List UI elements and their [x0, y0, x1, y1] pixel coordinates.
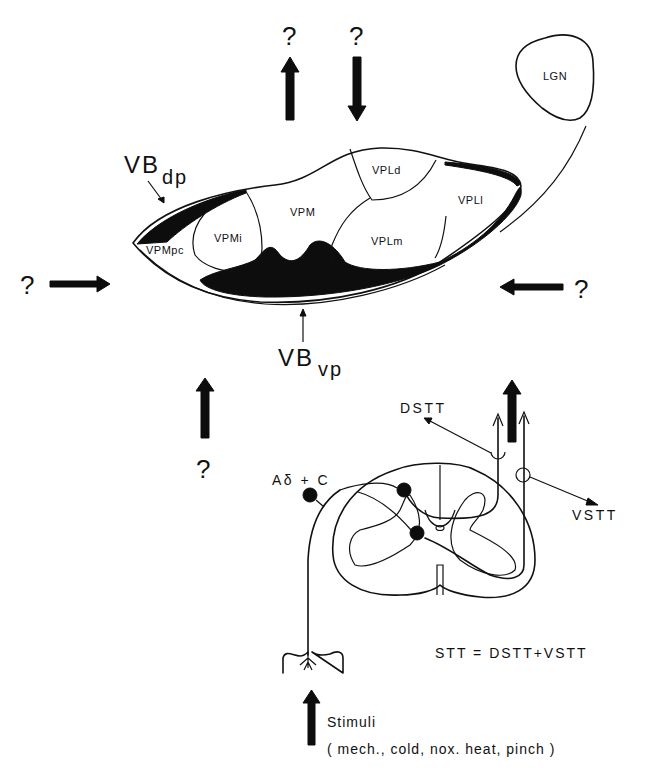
- stimuli-types: ( mech., cold, nox. heat, pinch ): [327, 741, 555, 757]
- thalamus-spinothalamic-diagram: ? ? LGN VPMpc VPMi VPM VPLd VPLm VPLl: [0, 0, 646, 777]
- nucleus-label-vpmi: VPMi: [214, 232, 242, 244]
- nucleus-label-vplm: VPLm: [371, 235, 403, 247]
- top-afferent-arrow: ?: [348, 21, 366, 121]
- ventral-median-fissure: [437, 565, 443, 595]
- vbdp-label-main: VB: [124, 151, 160, 178]
- stimuli-label: Stimuli: [327, 714, 376, 730]
- afferent-branch-deep: [358, 492, 411, 530]
- afferent-branch-superficial: [340, 483, 397, 490]
- nucleus-label-vpmpc: VPMpc: [146, 244, 184, 256]
- deep-dorsal-horn-neuron: [410, 526, 424, 540]
- lgn: LGN: [516, 35, 594, 120]
- vbvp-label-main: VB: [278, 344, 314, 371]
- central-canal: [436, 526, 444, 531]
- vstt-pointer: [530, 477, 590, 502]
- dorsal-horn-neuron: [397, 483, 411, 497]
- arrow-up-icon: [503, 380, 521, 442]
- nucleus-label-vpll: VPLl: [458, 194, 483, 206]
- left-input-arrow: ?: [20, 270, 110, 300]
- dstt-fiber: DSTT: [400, 400, 505, 518]
- unknown-label: ?: [196, 454, 210, 484]
- pointer-arrowhead-icon: [586, 498, 598, 505]
- stt-equation: STT = DSTT+VSTT: [435, 645, 588, 661]
- vbvp-label-group: VB vp: [278, 309, 343, 380]
- lgn-label: LGN: [543, 70, 567, 82]
- unknown-label: ?: [349, 21, 363, 51]
- spinal-cord-section: [333, 463, 535, 597]
- vbvp-label-sub: vp: [318, 358, 343, 380]
- right-input-arrow: ?: [500, 274, 588, 304]
- primary-afferent: Aδ + C: [272, 472, 343, 673]
- vstt-fiber: VSTT: [425, 412, 618, 578]
- vstt-label: VSTT: [572, 507, 618, 523]
- pointer-arrowhead-icon: [300, 309, 306, 316]
- nucleus-label-vpld: VPLd: [372, 164, 401, 176]
- stt-ascending-arrow: [503, 380, 521, 442]
- afferent-label: Aδ + C: [272, 472, 330, 488]
- top-efferent-arrow: ?: [281, 21, 299, 120]
- unknown-label: ?: [20, 270, 34, 300]
- peripheral-axon: [308, 490, 340, 655]
- arrow-left-icon: [500, 279, 563, 295]
- vstt-cross-section-marker: [516, 468, 530, 482]
- pointer-arrowhead-icon: [158, 197, 164, 203]
- dstt-axon: [404, 418, 498, 518]
- stimuli-group: Stimuli ( mech., cold, nox. heat, pinch …: [303, 690, 555, 757]
- unknown-label: ?: [574, 274, 588, 304]
- dstt-label: DSTT: [400, 400, 447, 416]
- nucleus-label-vpm: VPM: [290, 206, 315, 218]
- vbdp-label-group: VB dp: [124, 151, 188, 203]
- vpll-border: [435, 216, 446, 258]
- arrow-down-icon: [348, 57, 366, 121]
- pointer-arrowhead-icon: [424, 418, 432, 424]
- arrow-right-icon: [50, 276, 110, 292]
- bottom-input-arrow: ?: [196, 378, 214, 484]
- drg-neuron: [303, 488, 317, 502]
- ventrobasal-complex: VPMpc VPMi VPM VPLd VPLm VPLl: [133, 148, 521, 305]
- dstt-pointer: [430, 421, 491, 453]
- vbdp-pointer: [148, 181, 162, 200]
- gray-matter-right: [451, 493, 516, 576]
- free-nerve-endings: [300, 652, 316, 670]
- vbdp-label-sub: dp: [162, 166, 188, 188]
- spinal-cord-outline: [333, 463, 535, 597]
- unknown-label: ?: [282, 21, 296, 51]
- arrow-up-icon: [303, 690, 320, 745]
- arrow-up-icon: [196, 378, 214, 438]
- arrow-up-icon: [281, 57, 299, 120]
